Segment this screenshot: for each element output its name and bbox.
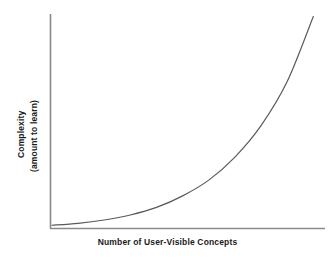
chart-figure: Number of User-Visible Concepts Complexi… (0, 0, 335, 257)
chart-plot-area (0, 0, 335, 257)
y-axis-label-line-1: Complexity (17, 111, 26, 158)
exponential-curve (52, 17, 313, 226)
x-axis-label: Number of User-Visible Concepts (0, 238, 335, 247)
y-axis-label-line-2: (amount to learn) (30, 100, 39, 172)
